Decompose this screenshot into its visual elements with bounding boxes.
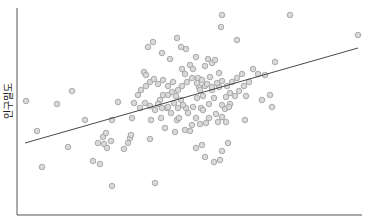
data-point	[194, 95, 200, 101]
data-point	[190, 104, 196, 110]
data-point	[54, 101, 60, 107]
data-point	[182, 71, 188, 77]
data-point	[223, 119, 229, 125]
data-point	[142, 100, 148, 106]
data-point	[219, 114, 225, 120]
data-point	[199, 142, 205, 148]
data-point	[131, 100, 137, 106]
data-point	[190, 66, 196, 72]
y-axis-label: 인구밀도	[0, 82, 15, 118]
data-point	[151, 76, 157, 82]
data-point	[269, 104, 275, 110]
data-point	[138, 87, 144, 93]
data-point	[172, 129, 178, 135]
data-point	[39, 164, 45, 170]
data-point	[194, 80, 200, 86]
data-point	[129, 115, 135, 121]
data-point	[69, 88, 75, 94]
data-point	[225, 140, 231, 146]
data-point	[104, 145, 110, 151]
data-point	[355, 32, 361, 38]
data-point	[147, 136, 153, 142]
data-point	[215, 119, 221, 125]
data-point	[90, 158, 96, 164]
data-point	[165, 83, 171, 89]
data-point	[189, 122, 195, 128]
data-point	[219, 12, 225, 18]
scatter-plot	[0, 0, 366, 217]
data-point	[82, 117, 88, 123]
data-point	[193, 145, 199, 151]
data-point	[193, 54, 199, 60]
data-point	[159, 50, 165, 56]
data-point	[193, 115, 199, 121]
data-point	[243, 93, 249, 99]
data-point	[242, 117, 248, 123]
data-point	[165, 92, 171, 98]
data-point	[211, 95, 217, 101]
data-point	[204, 81, 210, 87]
data-point	[108, 138, 114, 144]
data-point	[145, 44, 151, 50]
data-point	[211, 159, 217, 165]
data-point	[202, 63, 208, 69]
data-point	[152, 180, 158, 186]
data-point	[179, 66, 185, 72]
data-point	[226, 104, 232, 110]
data-point	[165, 104, 171, 110]
data-point	[152, 107, 158, 113]
data-point	[121, 146, 127, 152]
data-point	[115, 99, 121, 105]
data-point	[175, 105, 181, 111]
data-point	[155, 81, 161, 87]
data-point	[143, 72, 149, 78]
data-point	[150, 39, 156, 45]
data-point	[236, 88, 242, 94]
data-point	[206, 101, 212, 107]
data-point	[167, 56, 173, 62]
data-point	[197, 121, 203, 127]
data-point	[183, 46, 189, 52]
data-point	[219, 148, 225, 154]
data-point	[65, 144, 71, 150]
data-point	[219, 78, 225, 84]
data-point	[128, 132, 134, 138]
data-point	[207, 74, 213, 80]
data-point	[158, 115, 164, 121]
data-point	[216, 70, 222, 76]
data-point	[170, 79, 176, 85]
data-point	[168, 110, 174, 116]
data-point	[97, 161, 103, 167]
data-point	[176, 115, 182, 121]
data-point	[267, 92, 273, 98]
data-point	[234, 37, 240, 43]
data-point	[160, 77, 166, 83]
data-point	[162, 125, 168, 131]
data-point	[223, 94, 229, 100]
data-point	[272, 59, 278, 65]
data-point	[218, 24, 224, 30]
data-point	[23, 98, 29, 104]
data-point	[259, 97, 265, 103]
data-point	[148, 117, 154, 123]
y-axis-label-container: 인구밀도	[0, 78, 14, 122]
data-point	[200, 107, 206, 113]
data-point	[135, 92, 141, 98]
data-point	[179, 83, 185, 89]
data-point	[174, 35, 180, 41]
data-point	[203, 120, 209, 126]
data-points	[23, 12, 361, 189]
data-point	[95, 140, 101, 146]
data-point	[200, 93, 206, 99]
data-point	[182, 127, 188, 133]
data-point	[239, 71, 245, 77]
data-point	[241, 83, 247, 89]
data-point	[199, 77, 205, 83]
data-point	[206, 115, 212, 121]
data-point	[184, 79, 190, 85]
data-point	[202, 154, 208, 160]
data-point	[197, 87, 203, 93]
data-point	[287, 12, 293, 18]
data-point	[103, 130, 109, 136]
data-point	[232, 93, 238, 99]
